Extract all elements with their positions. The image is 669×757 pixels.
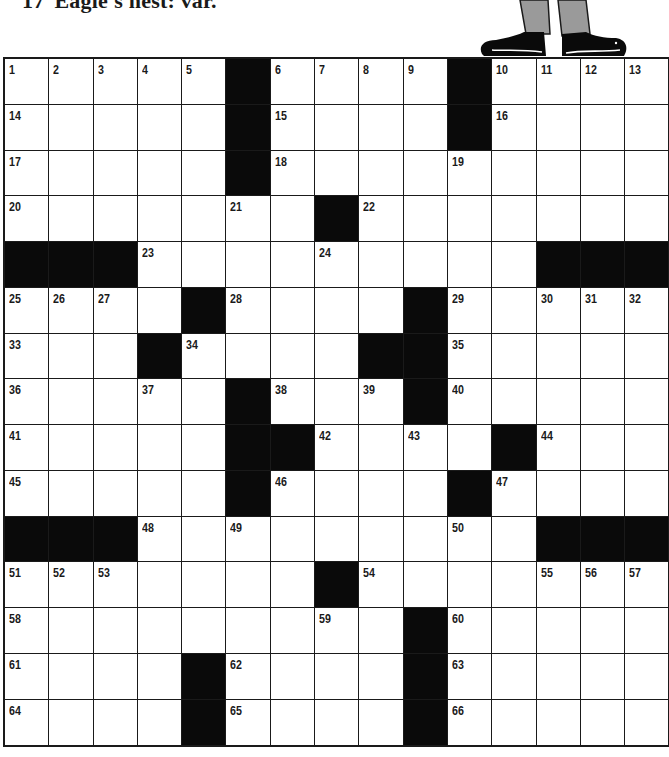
grid-cell[interactable]: 34 bbox=[182, 334, 226, 380]
grid-cell[interactable]: 14 bbox=[5, 105, 49, 151]
grid-cell[interactable]: 21 bbox=[226, 196, 270, 242]
grid-cell[interactable]: 32 bbox=[625, 288, 669, 334]
grid-cell[interactable] bbox=[537, 105, 581, 151]
grid-cell[interactable] bbox=[138, 608, 182, 654]
grid-cell[interactable]: 8 bbox=[359, 59, 403, 105]
grid-cell[interactable]: 31 bbox=[581, 288, 625, 334]
grid-cell[interactable] bbox=[581, 105, 625, 151]
grid-cell[interactable] bbox=[315, 151, 359, 197]
grid-cell[interactable]: 61 bbox=[5, 654, 49, 700]
grid-cell[interactable] bbox=[226, 334, 270, 380]
grid-cell[interactable] bbox=[315, 105, 359, 151]
grid-cell[interactable]: 29 bbox=[448, 288, 492, 334]
grid-cell[interactable] bbox=[138, 471, 182, 517]
grid-cell[interactable] bbox=[182, 242, 226, 288]
grid-cell[interactable]: 20 bbox=[5, 196, 49, 242]
grid-cell[interactable]: 12 bbox=[581, 59, 625, 105]
grid-cell[interactable] bbox=[404, 562, 448, 608]
grid-cell[interactable]: 35 bbox=[448, 334, 492, 380]
grid-cell[interactable] bbox=[492, 700, 536, 746]
grid-cell[interactable]: 58 bbox=[5, 608, 49, 654]
grid-cell[interactable]: 43 bbox=[404, 425, 448, 471]
grid-cell[interactable]: 65 bbox=[226, 700, 270, 746]
grid-cell[interactable] bbox=[94, 425, 138, 471]
grid-cell[interactable] bbox=[138, 425, 182, 471]
grid-cell[interactable] bbox=[182, 562, 226, 608]
grid-cell[interactable] bbox=[94, 151, 138, 197]
grid-cell[interactable] bbox=[581, 334, 625, 380]
grid-cell[interactable]: 64 bbox=[5, 700, 49, 746]
grid-cell[interactable] bbox=[138, 700, 182, 746]
grid-cell[interactable] bbox=[182, 517, 226, 563]
grid-cell[interactable] bbox=[94, 471, 138, 517]
grid-cell[interactable] bbox=[94, 334, 138, 380]
grid-cell[interactable]: 3 bbox=[94, 59, 138, 105]
grid-cell[interactable]: 50 bbox=[448, 517, 492, 563]
grid-cell[interactable] bbox=[271, 196, 315, 242]
grid-cell[interactable]: 39 bbox=[359, 379, 403, 425]
grid-cell[interactable] bbox=[581, 151, 625, 197]
grid-cell[interactable] bbox=[581, 654, 625, 700]
grid-cell[interactable] bbox=[226, 608, 270, 654]
grid-cell[interactable]: 56 bbox=[581, 562, 625, 608]
grid-cell[interactable] bbox=[537, 151, 581, 197]
grid-cell[interactable]: 13 bbox=[625, 59, 669, 105]
grid-cell[interactable] bbox=[271, 334, 315, 380]
grid-cell[interactable] bbox=[94, 105, 138, 151]
grid-cell[interactable] bbox=[492, 379, 536, 425]
grid-cell[interactable] bbox=[315, 700, 359, 746]
grid-cell[interactable] bbox=[581, 608, 625, 654]
grid-cell[interactable] bbox=[359, 242, 403, 288]
grid-cell[interactable]: 52 bbox=[49, 562, 93, 608]
grid-cell[interactable] bbox=[625, 700, 669, 746]
grid-cell[interactable] bbox=[537, 608, 581, 654]
grid-cell[interactable]: 47 bbox=[492, 471, 536, 517]
grid-cell[interactable] bbox=[315, 288, 359, 334]
grid-cell[interactable] bbox=[49, 334, 93, 380]
grid-cell[interactable] bbox=[492, 334, 536, 380]
grid-cell[interactable]: 62 bbox=[226, 654, 270, 700]
grid-cell[interactable] bbox=[537, 379, 581, 425]
grid-cell[interactable] bbox=[49, 700, 93, 746]
grid-cell[interactable] bbox=[182, 379, 226, 425]
grid-cell[interactable]: 22 bbox=[359, 196, 403, 242]
grid-cell[interactable] bbox=[271, 562, 315, 608]
grid-cell[interactable]: 59 bbox=[315, 608, 359, 654]
grid-cell[interactable] bbox=[49, 379, 93, 425]
grid-cell[interactable] bbox=[271, 242, 315, 288]
grid-cell[interactable] bbox=[271, 517, 315, 563]
grid-cell[interactable]: 18 bbox=[271, 151, 315, 197]
grid-cell[interactable]: 60 bbox=[448, 608, 492, 654]
grid-cell[interactable] bbox=[182, 196, 226, 242]
grid-cell[interactable] bbox=[625, 334, 669, 380]
grid-cell[interactable] bbox=[49, 654, 93, 700]
grid-cell[interactable] bbox=[315, 379, 359, 425]
grid-cell[interactable] bbox=[359, 608, 403, 654]
grid-cell[interactable]: 44 bbox=[537, 425, 581, 471]
grid-cell[interactable] bbox=[94, 608, 138, 654]
grid-cell[interactable]: 15 bbox=[271, 105, 315, 151]
grid-cell[interactable]: 9 bbox=[404, 59, 448, 105]
grid-cell[interactable] bbox=[492, 151, 536, 197]
grid-cell[interactable] bbox=[138, 654, 182, 700]
grid-cell[interactable]: 45 bbox=[5, 471, 49, 517]
grid-cell[interactable] bbox=[625, 105, 669, 151]
grid-cell[interactable]: 28 bbox=[226, 288, 270, 334]
grid-cell[interactable] bbox=[625, 425, 669, 471]
grid-cell[interactable] bbox=[182, 425, 226, 471]
grid-cell[interactable] bbox=[49, 608, 93, 654]
grid-cell[interactable]: 26 bbox=[49, 288, 93, 334]
grid-cell[interactable] bbox=[359, 151, 403, 197]
grid-cell[interactable] bbox=[581, 700, 625, 746]
grid-cell[interactable] bbox=[138, 105, 182, 151]
grid-cell[interactable] bbox=[49, 471, 93, 517]
grid-cell[interactable] bbox=[404, 471, 448, 517]
grid-cell[interactable] bbox=[359, 425, 403, 471]
grid-cell[interactable]: 48 bbox=[138, 517, 182, 563]
grid-cell[interactable] bbox=[537, 334, 581, 380]
grid-cell[interactable] bbox=[492, 242, 536, 288]
grid-cell[interactable]: 49 bbox=[226, 517, 270, 563]
grid-cell[interactable]: 6 bbox=[271, 59, 315, 105]
grid-cell[interactable] bbox=[182, 151, 226, 197]
grid-cell[interactable] bbox=[404, 196, 448, 242]
